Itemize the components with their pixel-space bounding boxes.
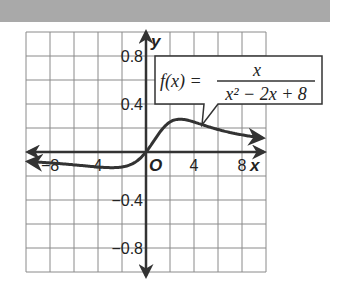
svg-text:−8: −8 bbox=[41, 157, 59, 174]
function-lhs: f(x) = bbox=[160, 71, 202, 92]
function-graph: −84480.80.4−0.4−0.8 y x O f(x) = x x² − … bbox=[0, 0, 341, 300]
function-numerator: x bbox=[252, 60, 261, 80]
function-denominator: x² − 2x + 8 bbox=[224, 84, 307, 104]
svg-text:4: 4 bbox=[190, 157, 199, 174]
svg-text:0.4: 0.4 bbox=[121, 96, 143, 113]
svg-text:−0.8: −0.8 bbox=[111, 240, 143, 257]
svg-text:8: 8 bbox=[238, 157, 247, 174]
function-callout: f(x) = x x² − 2x + 8 bbox=[155, 56, 322, 125]
origin-label: O bbox=[149, 156, 162, 175]
y-axis-label: y bbox=[150, 32, 162, 51]
svg-text:0.8: 0.8 bbox=[121, 48, 143, 65]
svg-text:−0.4: −0.4 bbox=[111, 192, 143, 209]
x-axis-label: x bbox=[249, 156, 261, 175]
